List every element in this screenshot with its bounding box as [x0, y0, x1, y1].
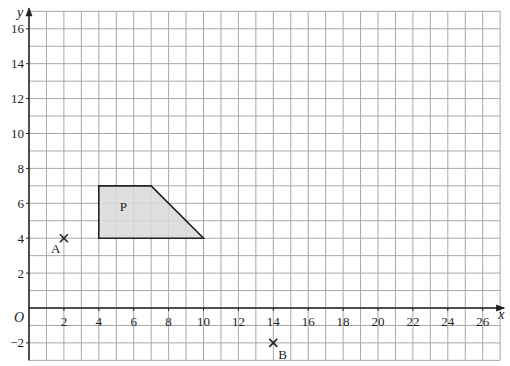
y-tick-label: 12	[11, 91, 24, 106]
axes	[26, 7, 506, 360]
x-tick-label: 18	[337, 314, 350, 329]
x-tick-label: 26	[476, 314, 490, 329]
y-axis-label: y	[15, 5, 24, 20]
x-tick-label: 8	[165, 314, 172, 329]
y-tick-label: 16	[11, 21, 25, 36]
x-tick-label: 6	[130, 314, 137, 329]
x-tick-label: 14	[267, 314, 281, 329]
y-tick-label: 10	[11, 126, 24, 141]
y-tick-label: 2	[18, 266, 25, 281]
x-tick-label: 10	[197, 314, 210, 329]
y-tick-label: −2	[10, 335, 24, 350]
y-tick-label: 8	[18, 161, 25, 176]
x-tick-label: 22	[406, 314, 419, 329]
y-tick-label: 6	[18, 196, 25, 211]
x-tick-label: 2	[61, 314, 68, 329]
x-tick-label: 16	[302, 314, 316, 329]
y-tick-label: 4	[18, 231, 25, 246]
x-tick-label: 4	[96, 314, 103, 329]
coordinate-grid-figure: 2468101214161820222426−2246810121416 AB …	[0, 0, 510, 366]
shape-p	[99, 186, 204, 238]
x-axis-label: x	[497, 307, 505, 322]
y-tick-label: 14	[11, 56, 25, 71]
shape-p-label: P	[120, 199, 127, 214]
x-tick-label: 24	[441, 314, 455, 329]
point-b-label: B	[278, 347, 287, 362]
point-a-label: A	[51, 241, 61, 256]
x-tick-label: 20	[372, 314, 385, 329]
origin-label: O	[14, 310, 24, 325]
x-tick-label: 12	[232, 314, 245, 329]
